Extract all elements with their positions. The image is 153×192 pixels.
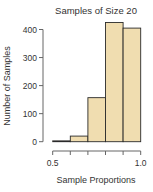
y-tick-label: 200	[23, 81, 37, 91]
histogram-bar	[88, 98, 106, 142]
y-axis: 0100200300400	[23, 25, 43, 147]
histogram-bar	[123, 28, 141, 142]
x-tick-label: 0.5	[47, 158, 59, 168]
y-tick-label: 300	[23, 53, 37, 63]
bars	[53, 22, 141, 141]
x-axis: 0.51.0	[47, 151, 147, 168]
chart-title: Samples of Size 20	[55, 5, 137, 16]
histogram-chart: Samples of Size 20 0100200300400 Number …	[0, 0, 153, 192]
y-tick-label: 0	[32, 137, 37, 147]
histogram-bar	[53, 141, 71, 142]
histogram-bar	[70, 136, 88, 142]
x-axis-label: Sample Proportions	[56, 175, 136, 185]
histogram-bar	[106, 22, 124, 141]
y-tick-label: 400	[23, 25, 37, 35]
x-tick-label: 1.0	[135, 158, 147, 168]
y-axis-label: Number of Samples	[2, 46, 12, 126]
y-tick-label: 100	[23, 109, 37, 119]
